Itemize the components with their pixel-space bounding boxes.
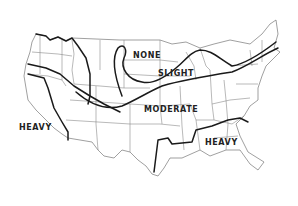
label-none: NONE [133,51,161,60]
label-moderate: MODERATE [144,105,198,114]
heavy-west-boundary [36,34,90,104]
label-slight: SLIGHT [158,69,194,78]
us-zone-map: NONE SLIGHT MODERATE HEAVY HEAVY [0,0,298,206]
label-heavy-southeast: HEAVY [205,138,238,147]
us-outline [24,20,280,176]
label-heavy-west: HEAVY [19,123,52,132]
